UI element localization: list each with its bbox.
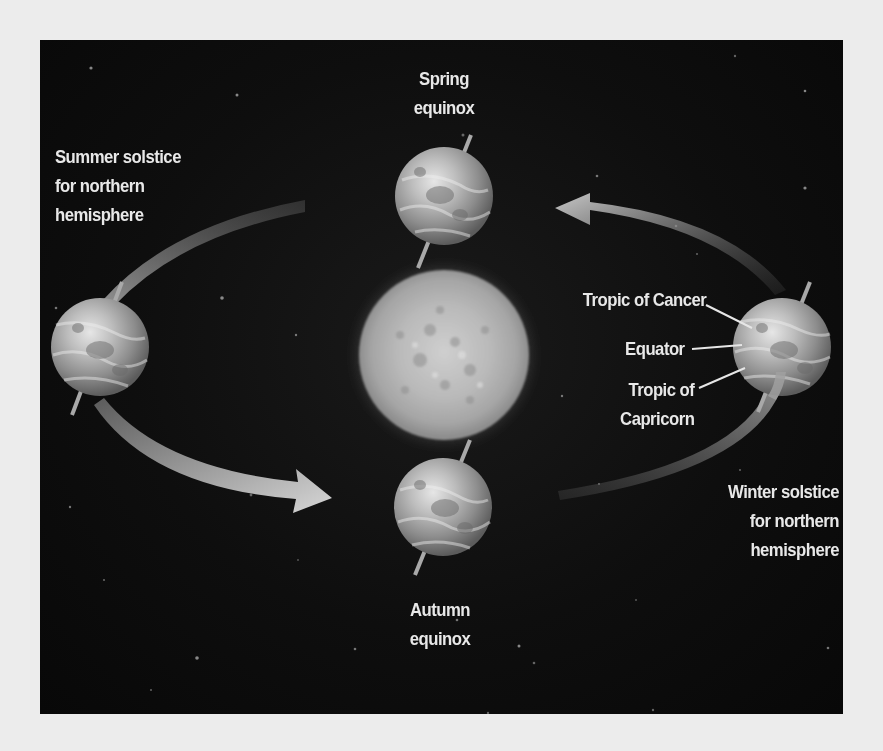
label-equator: Equator: [626, 334, 685, 363]
label-summer-solstice: Summer solstice for northern hemisphere: [55, 142, 181, 229]
label-line: equinox: [387, 624, 493, 653]
label-line: Summer solstice: [55, 142, 181, 171]
label-line: Tropic of Cancer: [583, 285, 706, 314]
sun-icon: [349, 260, 539, 450]
label-line: Capricorn: [620, 404, 694, 433]
earth-globe-autumn-icon: [394, 440, 492, 575]
earth-globe-summer-icon: [51, 282, 149, 415]
orbit-arrow-summer-to-autumn: [94, 398, 332, 513]
pointer-tropic-of-capricorn: [699, 368, 745, 388]
label-line: Winter solstice: [728, 477, 839, 506]
label-line: Spring: [391, 64, 497, 93]
label-line: hemisphere: [728, 535, 839, 564]
label-autumn-equinox: Autumn equinox: [387, 595, 493, 653]
label-line: hemisphere: [55, 200, 181, 229]
label-line: for northern: [55, 171, 181, 200]
orbit-arrow-winter-to-spring: [555, 193, 786, 295]
label-tropic-of-cancer: Tropic of Cancer: [583, 285, 706, 314]
label-line: Tropic of: [620, 375, 694, 404]
earth-globe-spring-icon: [395, 135, 493, 268]
label-line: for northern: [728, 506, 839, 535]
earth-globe-winter-icon: [733, 282, 831, 412]
label-line: equinox: [391, 93, 497, 122]
label-tropic-of-capricorn: Tropic of Capricorn: [620, 375, 694, 433]
label-line: Autumn: [387, 595, 493, 624]
label-line: Equator: [626, 334, 685, 363]
label-spring-equinox: Spring equinox: [391, 64, 497, 122]
label-winter-solstice: Winter solstice for northern hemisphere: [728, 477, 839, 564]
